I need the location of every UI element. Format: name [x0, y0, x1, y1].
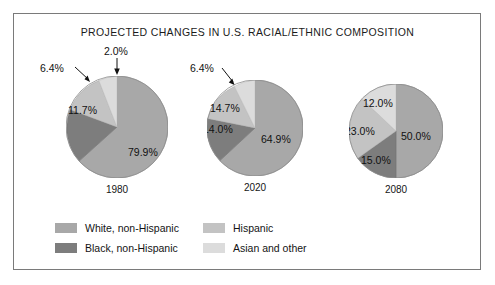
slice-value-hispanic-2080: 23.0% — [349, 125, 375, 137]
legend-swatch-black-non-hispanic — [55, 243, 77, 253]
chart-page: PROJECTED CHANGES IN U.S. RACIAL/ETHNIC … — [0, 0, 495, 285]
callout-asian-1980: 2.0% — [104, 45, 128, 57]
slice-value-white-1980: 79.9% — [128, 146, 158, 158]
legend-item-black-non-hispanic: Black, non-Hispanic — [55, 242, 203, 254]
callout-arrow-hispanic-1980 — [74, 66, 96, 84]
legend-swatch-white-non-hispanic — [55, 223, 77, 233]
pie-chart-2020: 64.9% 14.0% 14.7% 2020 — [207, 80, 303, 176]
legend-item-asian-and-other: Asian and other — [203, 242, 307, 254]
callout-hispanic-1980: 6.4% — [40, 62, 64, 74]
legend-label-asian-and-other: Asian and other — [233, 242, 307, 254]
pie-year-2080: 2080 — [349, 184, 443, 195]
legend-row-1: White, non-Hispanic Hispanic — [55, 218, 385, 238]
callout-arrow-asian-1980 — [112, 58, 122, 76]
pie-1980-svg: 79.9% 11.7% — [66, 76, 168, 178]
pie-chart-1980: 79.9% 11.7% 1980 — [66, 76, 168, 178]
legend-item-hispanic: Hispanic — [203, 222, 273, 234]
legend-swatch-hispanic — [203, 223, 225, 233]
slice-value-black-2080: 15.0% — [361, 154, 391, 166]
pie-year-1980: 1980 — [66, 184, 168, 195]
slice-value-black-1980: 11.7% — [68, 104, 97, 116]
chart-title: PROJECTED CHANGES IN U.S. RACIAL/ETHNIC … — [0, 26, 495, 38]
slice-value-hispanic-2020: 14.7% — [210, 102, 240, 114]
slice-value-white-2020: 64.9% — [261, 133, 291, 145]
legend-swatch-asian-and-other — [203, 243, 225, 253]
slice-value-asian-2080: 12.0% — [363, 97, 393, 109]
callout-arrow-asian-2020 — [221, 67, 241, 87]
pie-2020-svg: 64.9% 14.0% 14.7% — [207, 80, 303, 176]
chart-legend: White, non-Hispanic Hispanic Black, non-… — [55, 218, 385, 258]
slice-value-white-2080: 50.0% — [401, 130, 431, 142]
pie-chart-2080: 50.0% 15.0% 23.0% 12.0% 2080 — [349, 84, 443, 178]
pie-2080-svg: 50.0% 15.0% 23.0% 12.0% — [349, 84, 443, 178]
legend-label-hispanic: Hispanic — [233, 222, 273, 234]
slice-value-black-2020: 14.0% — [207, 123, 233, 135]
pie-year-2020: 2020 — [207, 182, 303, 193]
legend-row-2: Black, non-Hispanic Asian and other — [55, 238, 385, 258]
legend-label-white-non-hispanic: White, non-Hispanic — [85, 222, 179, 234]
callout-asian-2020: 6.4% — [190, 62, 214, 74]
legend-label-black-non-hispanic: Black, non-Hispanic — [85, 242, 178, 254]
legend-item-white-non-hispanic: White, non-Hispanic — [55, 222, 203, 234]
